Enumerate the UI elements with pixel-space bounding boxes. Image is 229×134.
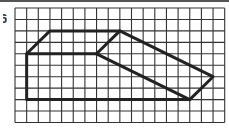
- grid-diagram: [0, 0, 229, 134]
